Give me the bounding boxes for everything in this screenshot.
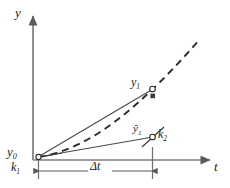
marker-y1 [150, 86, 156, 92]
t-axis-label: t [214, 160, 218, 173]
k1-label: k1 [11, 161, 20, 173]
figure-canvas: y t y0 k1 y1 ỹ1 k2 Δt [0, 0, 230, 188]
k2-label: k2 [158, 128, 167, 140]
y1-sub: 1 [136, 82, 140, 91]
y1-label: y1 [131, 76, 140, 88]
marker-exact-solution-point [150, 94, 155, 99]
true-solution-dashed-curve [39, 39, 200, 157]
y0-base: y [7, 144, 13, 159]
delta-t-label: Δt [90, 160, 100, 172]
y0-label: y0 [7, 145, 17, 158]
k2-sub: 2 [163, 134, 167, 143]
y-axis-label: y [15, 6, 21, 19]
diagram-svg [0, 0, 230, 188]
marker-y-tilde-1 [150, 134, 156, 140]
y-tilde-1-sub: 1 [138, 129, 141, 136]
k1-sub: 1 [16, 167, 20, 176]
marker-y0 [36, 154, 41, 159]
y-tilde-1-label: ỹ1 [133, 123, 141, 134]
